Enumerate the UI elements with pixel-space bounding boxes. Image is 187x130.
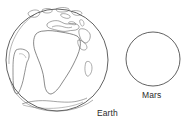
planet-size-comparison-diagram [0,0,187,130]
south-america-outline [13,49,29,94]
south-america-coast-detail [19,54,26,58]
earth-limb-arc-upper [9,15,34,64]
madagascar-outline [85,61,92,76]
caspian-sea-outline [80,20,84,26]
africa-outline [34,31,81,94]
earth-label: Earth [97,108,118,118]
antarctica-outline [22,98,87,104]
mars-label: Mars [142,90,161,100]
antarctica-lower-edge [23,102,83,108]
scandinavia-outline [61,14,70,19]
arabia-outline [79,29,90,43]
greenland-outline [28,10,40,17]
earth-outline-circle [6,9,108,111]
mars-globe [126,32,180,86]
mars-outline-circle [126,32,180,86]
mediterranean-outline [52,26,72,28]
black-sea-outline [69,22,76,25]
earth-globe [6,8,108,112]
